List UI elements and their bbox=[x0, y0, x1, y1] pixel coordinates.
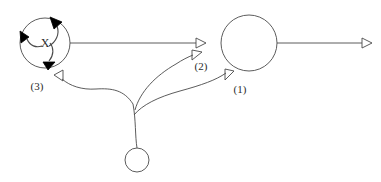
edge-three-arrowhead-icon bbox=[54, 70, 63, 81]
diagram-canvas: X (3) (2) (1) bbox=[0, 0, 381, 182]
edge-large-to-right-arrowhead-icon bbox=[362, 38, 372, 48]
edge-one-label: (1) bbox=[234, 83, 247, 96]
node-large-circle bbox=[221, 15, 277, 71]
node-x-arrowhead-bottom-icon bbox=[43, 62, 55, 70]
edge-three-label: (3) bbox=[31, 80, 44, 93]
edge-two-arrowhead-icon bbox=[192, 50, 202, 60]
edge-one-arrowhead-icon bbox=[225, 69, 234, 80]
figure-root: X (3) (2) (1) bbox=[0, 0, 381, 182]
edge-three-curve bbox=[62, 79, 133, 104]
node-small-circle bbox=[125, 148, 149, 172]
edge-two-curve bbox=[135, 55, 193, 110]
edge-two-label: (2) bbox=[195, 60, 208, 73]
edge-one-curve bbox=[134, 73, 226, 115]
node-x-arrowhead-top-right-icon bbox=[50, 17, 62, 29]
node-x-label: X bbox=[41, 36, 50, 50]
junction-stem bbox=[133, 104, 137, 148]
edge-x-to-two-arrowhead-icon bbox=[196, 38, 206, 48]
